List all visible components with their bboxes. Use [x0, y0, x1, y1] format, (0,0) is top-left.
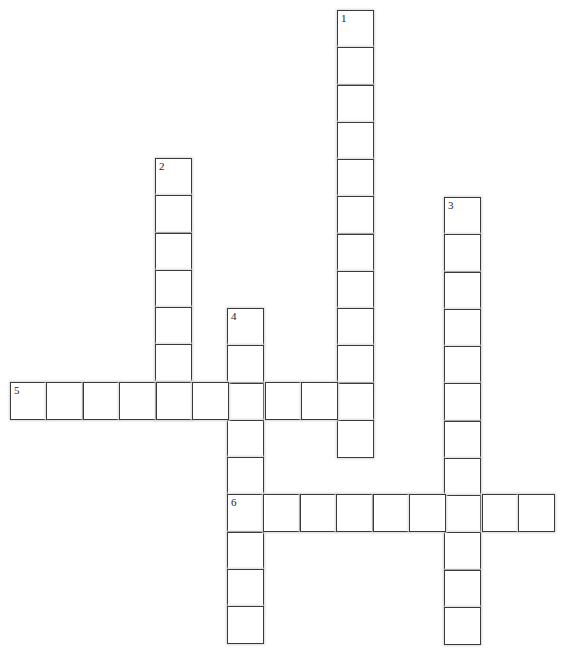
grid-cell[interactable]	[337, 308, 374, 346]
clue-number: 5	[14, 384, 20, 396]
grid-cell[interactable]	[444, 570, 481, 608]
grid-cell[interactable]: 5	[10, 382, 47, 420]
grid-cell[interactable]: 3	[444, 197, 481, 235]
grid-cell[interactable]	[337, 122, 374, 160]
grid-cell[interactable]	[444, 234, 481, 272]
grid-cell[interactable]	[444, 421, 481, 459]
grid-cell[interactable]	[444, 458, 481, 496]
clue-number: 6	[231, 496, 237, 508]
grid-cell[interactable]	[227, 532, 264, 570]
grid-cell[interactable]	[227, 420, 264, 458]
grid-cell[interactable]: 1	[337, 10, 374, 48]
grid-cell[interactable]	[119, 382, 156, 420]
grid-cell[interactable]	[83, 382, 120, 420]
clue-number: 2	[159, 160, 165, 172]
grid-cell[interactable]	[444, 495, 481, 533]
grid-cell[interactable]	[444, 607, 481, 645]
grid-cell[interactable]	[263, 494, 300, 532]
grid-cell[interactable]	[227, 345, 264, 383]
grid-cell[interactable]	[444, 346, 481, 384]
grid-cell[interactable]	[337, 420, 374, 458]
grid-cell[interactable]	[518, 494, 555, 532]
grid-cell[interactable]	[301, 382, 338, 420]
grid-cell[interactable]	[444, 532, 481, 570]
clue-number: 1	[341, 12, 347, 24]
grid-cell[interactable]	[155, 195, 192, 233]
clue-number: 4	[231, 310, 237, 322]
grid-cell[interactable]	[156, 382, 193, 420]
grid-cell[interactable]	[409, 494, 446, 532]
grid-cell[interactable]	[336, 494, 373, 532]
grid-cell[interactable]: 2	[155, 158, 192, 196]
grid-cell[interactable]	[337, 271, 374, 309]
grid-cell[interactable]	[444, 272, 481, 310]
grid-cell[interactable]: 4	[227, 308, 264, 346]
grid-cell[interactable]	[337, 159, 374, 197]
grid-cell[interactable]	[444, 383, 481, 421]
grid-cell[interactable]	[155, 307, 192, 345]
grid-cell[interactable]	[227, 569, 264, 607]
grid-cell[interactable]	[337, 234, 374, 272]
grid-cell[interactable]	[46, 382, 83, 420]
grid-cell[interactable]	[337, 47, 374, 85]
grid-cell[interactable]	[337, 383, 374, 421]
grid-cell[interactable]	[227, 457, 264, 495]
grid-cell[interactable]	[337, 196, 374, 234]
grid-cell[interactable]	[155, 344, 192, 382]
clue-number: 3	[448, 199, 454, 211]
grid-cell[interactable]	[155, 233, 192, 271]
grid-cell[interactable]: 6	[227, 494, 264, 532]
grid-cell[interactable]	[482, 494, 519, 532]
grid-cell[interactable]	[444, 309, 481, 347]
grid-cell[interactable]	[300, 494, 337, 532]
grid-cell[interactable]	[337, 85, 374, 123]
grid-cell[interactable]	[192, 382, 229, 420]
grid-cell[interactable]	[155, 270, 192, 308]
grid-cell[interactable]	[337, 345, 374, 383]
grid-cell[interactable]	[227, 383, 264, 421]
grid-cell[interactable]	[265, 382, 302, 420]
grid-cell[interactable]	[373, 494, 410, 532]
grid-cell[interactable]	[227, 606, 264, 644]
